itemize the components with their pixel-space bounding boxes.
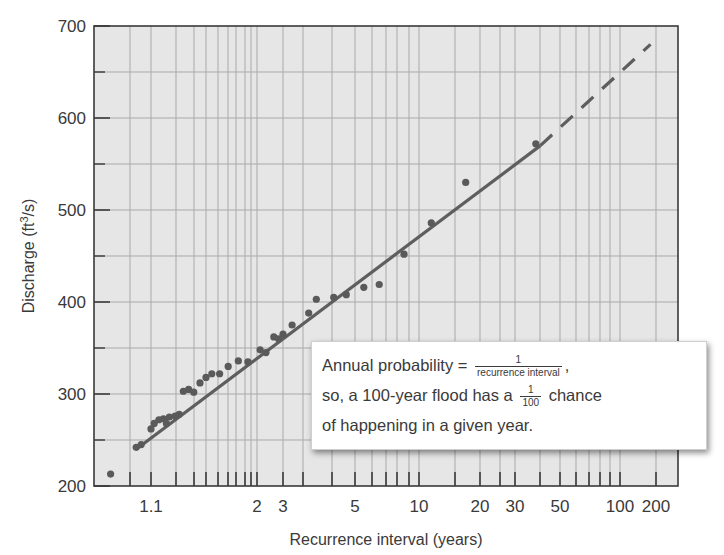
y-tick-label: 400 [58, 293, 86, 312]
data-point [244, 358, 251, 365]
data-point [225, 363, 232, 370]
callout-line-2: so, a 100-year flood has a 1100 chance [322, 380, 696, 410]
fraction-recurrence: 1recurrence interval [475, 355, 562, 378]
x-tick-label: 2 [252, 497, 261, 516]
data-point [138, 441, 145, 448]
data-point [235, 357, 242, 364]
x-tick-label: 1.1 [139, 497, 163, 516]
data-point [305, 309, 312, 316]
data-point [262, 349, 269, 356]
x-tick-label: 3 [278, 497, 287, 516]
x-axis-labels: 1.123510203050100200 [139, 497, 670, 516]
x-tick-label: 10 [410, 497, 429, 516]
data-point [176, 411, 183, 418]
callout-text: chance [544, 386, 602, 404]
fraction-numerator: 1 [520, 385, 541, 397]
x-tick-label: 20 [471, 497, 490, 516]
y-tick-label: 600 [58, 109, 86, 128]
fraction-denominator: recurrence interval [475, 367, 562, 378]
x-tick-label: 50 [551, 497, 570, 516]
fraction-denominator: 100 [520, 397, 541, 408]
data-point [360, 284, 367, 291]
data-point [428, 219, 435, 226]
x-tick-label: 30 [506, 497, 525, 516]
y-tick-label: 300 [58, 385, 86, 404]
flood-frequency-chart: 200300400500600700 1.123510203050100200 … [0, 0, 724, 555]
y-axis-labels: 200300400500600700 [58, 17, 86, 496]
data-point [288, 321, 295, 328]
callout-text: , [565, 356, 570, 374]
data-point [196, 379, 203, 386]
x-tick-label: 200 [642, 497, 670, 516]
data-point [313, 296, 320, 303]
data-point [163, 420, 170, 427]
callout-line-1: Annual probability = 1recurrence interva… [322, 350, 696, 380]
data-point [532, 140, 539, 147]
x-axis-title: Recurrence interval (years) [290, 531, 483, 548]
annual-probability-callout: Annual probability = 1recurrence interva… [311, 341, 707, 450]
y-tick-label: 200 [58, 477, 86, 496]
data-point [343, 291, 350, 298]
fraction-one-hundredth: 1100 [520, 385, 541, 408]
data-point [279, 331, 286, 338]
y-axis-title: Discharge (ft3/s) [18, 199, 37, 314]
data-point [376, 281, 383, 288]
data-point [462, 179, 469, 186]
data-point [216, 370, 223, 377]
data-point [208, 370, 215, 377]
data-point [400, 251, 407, 258]
x-tick-label: 100 [606, 497, 634, 516]
callout-text: so, a 100-year flood has a [322, 386, 517, 404]
y-tick-label: 700 [58, 17, 86, 36]
data-point [107, 470, 114, 477]
callout-line-3: of happening in a given year. [322, 410, 696, 440]
data-point [190, 389, 197, 396]
fraction-numerator: 1 [475, 355, 562, 367]
callout-text: Annual probability = [322, 356, 472, 374]
y-tick-label: 500 [58, 201, 86, 220]
x-tick-label: 5 [350, 497, 359, 516]
data-point [330, 294, 337, 301]
